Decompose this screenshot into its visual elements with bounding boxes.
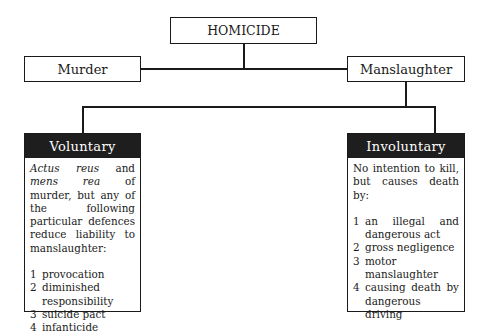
list-item: 3motor manslaughter (353, 255, 459, 282)
list-item: 3suicide pact (30, 308, 135, 321)
homicide-label: HOMICIDE (207, 23, 280, 38)
item-number: 4 (30, 321, 42, 334)
list-item: 2gross negligence (353, 241, 459, 254)
connector-manslaughter-down (405, 81, 407, 107)
mens-rea-term: mens rea (30, 175, 100, 187)
homicide-node: HOMICIDE (170, 17, 317, 44)
item-number: 1 (353, 215, 365, 242)
list-item: 1provocation (30, 268, 135, 281)
item-text: an illegal and dangerous act (365, 215, 459, 242)
item-text: infanticide (42, 321, 135, 334)
list-item: 4infanticide (30, 321, 135, 334)
item-number: 3 (30, 308, 42, 321)
item-text: motor manslaughter (365, 255, 459, 282)
connector-subtypes-horizontal (82, 106, 406, 108)
voluntary-title: Voluntary (49, 139, 115, 154)
item-text: provocation (42, 268, 135, 281)
involuntary-causes-list: 1an illegal and dangerous act 2gross neg… (353, 215, 459, 321)
voluntary-header: Voluntary (25, 134, 140, 158)
involuntary-header: Involuntary (348, 134, 464, 158)
item-number: 1 (30, 268, 42, 281)
murder-node: Murder (24, 56, 141, 82)
involuntary-body: No intention to kill, but causes death b… (348, 158, 464, 325)
item-number: 2 (353, 241, 365, 254)
list-item: 1an illegal and dangerous act (353, 215, 459, 242)
item-text: gross negligence (365, 241, 459, 254)
involuntary-title: Involuntary (366, 139, 445, 154)
list-item: 4causing death by dangerous driving (353, 281, 459, 321)
list-item: 2diminished responsibility (30, 281, 135, 308)
involuntary-intro: No intention to kill, but causes death b… (353, 162, 459, 202)
voluntary-defences-list: 1provocation 2diminished responsibility … (30, 268, 135, 334)
connector-right-extension (406, 106, 435, 108)
item-text: causing death by dangerous driving (365, 281, 459, 321)
voluntary-intro: Actus reus and mens rea of murder, but a… (30, 162, 135, 255)
actus-reus-term: Actus reus (30, 162, 99, 174)
connector-involuntary-down (434, 106, 436, 133)
item-number: 4 (353, 281, 365, 321)
voluntary-body: Actus reus and mens rea of murder, but a… (25, 158, 140, 335)
murder-label: Murder (57, 62, 107, 77)
manslaughter-node: Manslaughter (347, 56, 465, 82)
item-text: suicide pact (42, 308, 135, 321)
item-text: diminished responsibility (42, 281, 135, 308)
manslaughter-label: Manslaughter (360, 62, 452, 77)
intro-connector: and (99, 162, 135, 174)
item-number: 3 (353, 255, 365, 282)
involuntary-panel: Involuntary No intention to kill, but ca… (347, 133, 465, 312)
item-number: 2 (30, 281, 42, 308)
voluntary-panel: Voluntary Actus reus and mens rea of mur… (24, 133, 141, 312)
connector-voluntary-down (82, 106, 84, 133)
connector-murder-manslaughter (140, 68, 347, 70)
connector-homicide-down (243, 43, 245, 68)
